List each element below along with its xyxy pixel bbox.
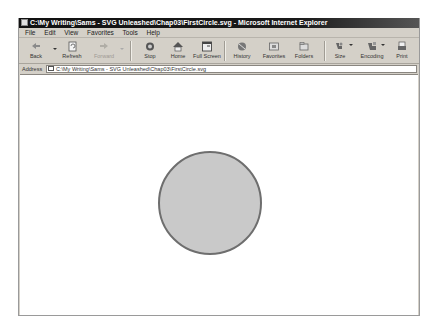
fullscreen-icon <box>201 41 213 52</box>
favorites-button[interactable]: Favorites <box>257 40 291 62</box>
svg-canvas <box>20 75 420 316</box>
forward-dropdown-arrow-icon[interactable] <box>120 48 124 50</box>
encoding-icon <box>366 41 378 52</box>
window-title: C:\My Writing\Sams - SVG Unleashed\Chap0… <box>30 19 327 26</box>
forward-button[interactable]: Forward <box>89 40 119 62</box>
full-screen-button[interactable]: Full Screen <box>191 40 223 62</box>
menu-file[interactable]: File <box>25 29 35 36</box>
page-content <box>20 74 418 315</box>
encoding-dropdown-arrow-icon[interactable] <box>381 44 385 46</box>
home-button[interactable]: Home <box>163 40 193 62</box>
page-icon <box>48 66 54 71</box>
history-icon <box>236 41 248 52</box>
menu-view[interactable]: View <box>64 29 78 36</box>
menu-favorites[interactable]: Favorites <box>87 29 114 36</box>
menu-help[interactable]: Help <box>147 29 160 36</box>
home-icon <box>172 41 184 52</box>
print-icon <box>396 41 408 52</box>
size-dropdown-arrow-icon[interactable] <box>349 44 353 46</box>
browser-window: C:\My Writing\Sams - SVG Unleashed\Chap0… <box>18 18 420 316</box>
menu-bar: File Edit View Favorites Tools Help <box>19 28 419 38</box>
back-arrow-icon <box>30 41 42 52</box>
print-button[interactable]: Print <box>387 40 417 62</box>
menu-edit[interactable]: Edit <box>44 29 55 36</box>
address-value: C:\My Writing\Sams - SVG Unleashed\Chap0… <box>56 66 206 72</box>
menu-tools[interactable]: Tools <box>123 29 138 36</box>
history-button[interactable]: History <box>227 40 257 62</box>
toolbar-separator <box>224 41 226 61</box>
forward-arrow-icon <box>98 41 110 52</box>
circle-shape <box>159 152 261 254</box>
address-bar: Address C:\My Writing\Sams - SVG Unleash… <box>19 64 419 74</box>
folders-icon <box>298 41 310 52</box>
toolbar-separator <box>130 41 132 61</box>
size-icon <box>334 41 346 52</box>
address-label: Address <box>22 64 42 74</box>
favorites-icon <box>268 41 280 52</box>
stop-icon <box>144 41 156 52</box>
refresh-icon <box>66 41 78 52</box>
standard-toolbar: Back Refresh Forward Stop <box>19 38 419 64</box>
title-bar[interactable]: C:\My Writing\Sams - SVG Unleashed\Chap0… <box>19 18 419 28</box>
stop-button[interactable]: Stop <box>135 40 165 62</box>
refresh-button[interactable]: Refresh <box>57 40 87 62</box>
address-input[interactable]: C:\My Writing\Sams - SVG Unleashed\Chap0… <box>46 65 417 73</box>
back-button[interactable]: Back <box>21 40 51 62</box>
ie-app-icon[interactable] <box>21 19 28 26</box>
folders-button[interactable]: Folders <box>289 40 319 62</box>
